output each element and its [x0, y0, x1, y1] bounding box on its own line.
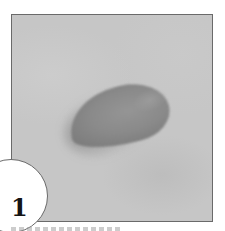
caption-remnant [11, 227, 121, 231]
figure-number: 1 [11, 196, 28, 220]
